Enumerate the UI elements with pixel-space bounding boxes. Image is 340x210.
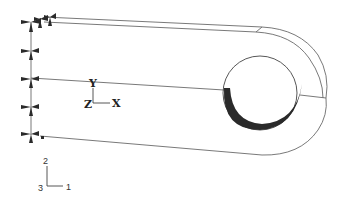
global-triad: 2 3 1 <box>38 156 71 193</box>
bc-symbol <box>21 131 44 143</box>
boundary-conditions <box>21 13 56 143</box>
bc-symbol <box>21 18 41 32</box>
bc-symbol <box>21 48 39 60</box>
contact-crescent <box>224 84 302 130</box>
axis-label-y: Y <box>88 77 97 90</box>
triad-label-2: 2 <box>43 156 48 166</box>
hole <box>223 56 302 130</box>
bc-symbol <box>21 76 39 88</box>
axis-label-x: X <box>112 97 121 110</box>
triad-label-1: 1 <box>66 182 71 192</box>
fe-model-diagram: Y Z X 2 3 1 <box>0 0 340 210</box>
plate-outline <box>31 17 327 155</box>
triad-label-3: 3 <box>38 183 43 193</box>
bc-symbol <box>21 104 39 116</box>
axis-label-z: Z <box>84 98 92 111</box>
